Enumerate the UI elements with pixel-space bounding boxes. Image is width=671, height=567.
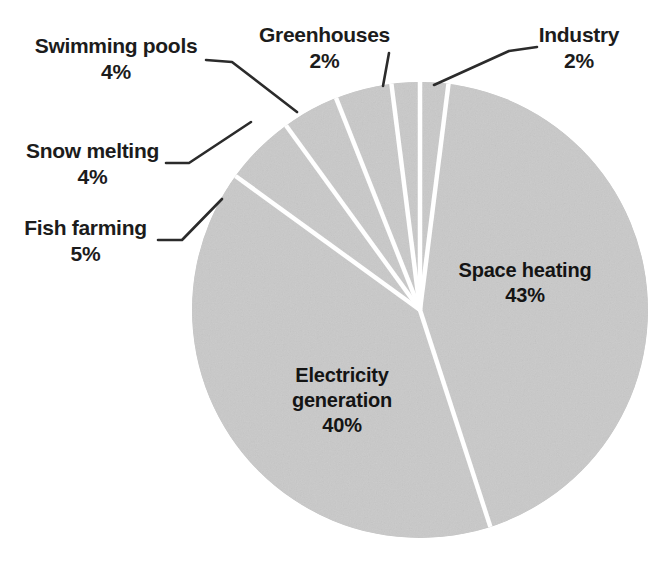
pie-slices-group [192,82,648,538]
slice-label-swimming-pools-name: Swimming pools [26,33,206,59]
slice-label-fish-farming-percent: 5% [8,241,163,267]
slice-label-electricity-generation: Electricity generation 40% [257,363,427,438]
slice-label-greenhouses: Greenhouses 2% [242,22,407,74]
slice-label-industry: Industry 2% [519,22,639,74]
slice-label-fish-farming-name: Fish farming [8,215,163,241]
slice-label-snow-melting: Snow melting 4% [15,138,170,190]
slice-label-space-heating: Space heating 43% [440,258,610,308]
slice-label-electricity-generation-percent: 40% [257,413,427,438]
slice-label-electricity-generation-line1: Electricity [257,363,427,388]
slice-label-swimming-pools: Swimming pools 4% [26,33,206,85]
slice-label-greenhouses-name: Greenhouses [242,22,407,48]
slice-label-industry-percent: 2% [519,48,639,74]
leader-line-snow-melting [166,122,251,163]
pie-chart-figure: Swimming pools 4% Greenhouses 2% Industr… [0,0,671,567]
slice-label-greenhouses-percent: 2% [242,48,407,74]
slice-label-snow-melting-name: Snow melting [15,138,170,164]
slice-label-electricity-generation-line2: generation [257,388,427,413]
slice-label-space-heating-percent: 43% [440,283,610,308]
slice-label-snow-melting-percent: 4% [15,164,170,190]
slice-label-industry-name: Industry [519,22,639,48]
slice-label-space-heating-name: Space heating [440,258,610,283]
slice-label-fish-farming: Fish farming 5% [8,215,163,267]
slice-label-swimming-pools-percent: 4% [26,59,206,85]
